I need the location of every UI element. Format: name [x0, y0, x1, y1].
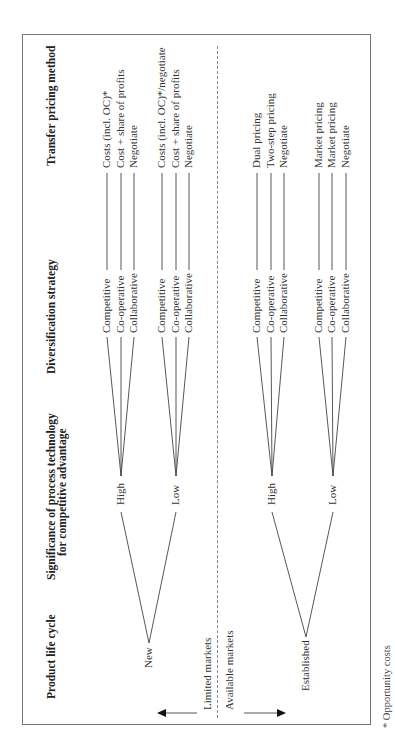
strategy-established-low-competitive: Competitive	[313, 279, 324, 333]
strategy-established-high-cooperative: Co-operative	[265, 276, 276, 333]
header-significance-line2: for competitive advantage	[57, 428, 69, 556]
label-limited-markets: Limited markets	[202, 638, 213, 710]
pricing-established-low-collaborative: Negotiate	[340, 125, 351, 168]
header-product-life-cycle: Product life cycle	[46, 614, 58, 699]
header-transfer-pricing-method: Transfer pricing method	[46, 46, 58, 166]
node-new-low: Low	[170, 485, 181, 505]
pricing-established-high-competitive: Dual pricing	[251, 113, 262, 168]
strategy-new-high-cooperative: Co-operative	[115, 276, 126, 333]
node-established: Established	[300, 640, 311, 691]
strategy-established-high-competitive: Competitive	[251, 279, 262, 333]
pricing-established-high-cooperative: Two-step pricing	[265, 93, 276, 168]
pricing-new-high-competitive: Costs (incl. OC)*	[101, 91, 112, 168]
node-new-high: High	[115, 483, 126, 505]
pricing-new-low-cooperative: Cost + share of profits	[170, 70, 181, 168]
strategy-new-low-cooperative: Co-operative	[170, 276, 181, 333]
header-diversification-strategy: Diversification strategy	[46, 259, 58, 374]
strategy-new-high-collaborative: Collaborative	[128, 273, 139, 333]
strategy-new-low-competitive: Competitive	[156, 279, 167, 333]
transfer-pricing-decision-tree: Product life cycle Significance of proce…	[0, 0, 395, 751]
strategy-established-low-cooperative: Co-operative	[326, 276, 337, 333]
pricing-new-high-collaborative: Negotiate	[128, 125, 139, 168]
node-new: New	[143, 647, 154, 668]
footnote-opportunity-costs: * Opportunity costs	[382, 645, 393, 728]
arrow-right-icon	[277, 709, 286, 717]
pricing-new-low-collaborative: Negotiate	[183, 125, 194, 168]
pricing-established-high-collaborative: Negotiate	[278, 125, 289, 168]
arrow-left-icon	[157, 709, 166, 717]
node-established-low: Low	[327, 485, 338, 505]
pricing-new-low-competitive: Costs (incl. OC)*/negotiate	[156, 47, 167, 168]
pricing-established-low-cooperative: Market pricing	[326, 102, 337, 168]
pricing-new-high-cooperative: Cost + share of profits	[115, 70, 126, 168]
strategy-established-low-collaborative: Collaborative	[340, 273, 351, 333]
pricing-established-low-competitive: Market pricing	[313, 102, 324, 168]
strategy-new-low-collaborative: Collaborative	[183, 273, 194, 333]
label-available-markets: Available markets	[224, 630, 235, 710]
strategy-new-high-competitive: Competitive	[101, 279, 112, 333]
node-established-high: High	[266, 483, 277, 505]
strategy-established-high-collaborative: Collaborative	[278, 273, 289, 333]
